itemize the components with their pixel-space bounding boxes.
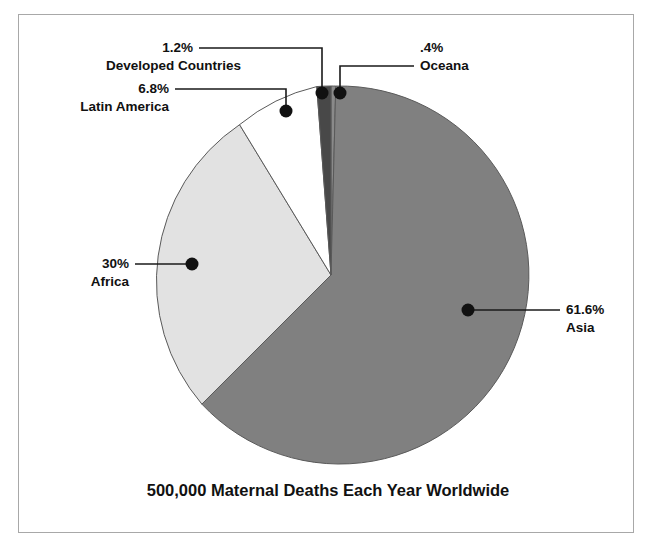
pie-label-africa-name: Africa (91, 274, 130, 289)
pie-chart-canvas: 1.2% Developed Countries .4% Oceana 6.8%… (0, 0, 656, 556)
pie-label-oceana-name: Oceana (420, 58, 469, 73)
pie-label-asia-percent: 61.6% (566, 302, 604, 317)
pie-chart-figure: 1.2% Developed Countries .4% Oceana 6.8%… (0, 0, 656, 556)
chart-caption: 500,000 Maternal Deaths Each Year Worldw… (147, 481, 510, 499)
pie-label-developed-countries-name: Developed Countries (106, 58, 241, 73)
anchor-dot-developed-countries (316, 87, 329, 100)
pie-label-oceana-percent: .4% (420, 40, 443, 55)
anchor-dot-africa (186, 258, 199, 271)
anchor-dot-asia (462, 304, 475, 317)
pie-label-latin-america-name: Latin America (80, 99, 169, 114)
pie-label-latin-america-percent: 6.8% (138, 81, 169, 96)
pie-label-developed-countries-percent: 1.2% (162, 40, 193, 55)
anchor-dot-latin-america (280, 105, 293, 118)
pie-label-asia-name: Asia (566, 320, 595, 335)
pie-label-africa-percent: 30% (102, 256, 129, 271)
anchor-dot-oceana (334, 87, 347, 100)
